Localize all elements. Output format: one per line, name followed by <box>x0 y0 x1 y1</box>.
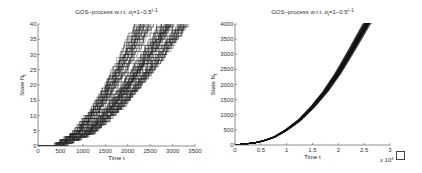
x-tick-label: 1 <box>285 147 289 153</box>
y-tick-label: 20 <box>30 82 37 88</box>
x-axis-label: Time t <box>304 154 321 160</box>
data-paths <box>235 22 373 145</box>
data-paths <box>38 24 189 146</box>
checkbox[interactable] <box>396 151 405 160</box>
x-tick-label: 1000 <box>76 148 90 154</box>
x-tick-label: 0 <box>233 147 237 153</box>
y-tick-label: 2000 <box>220 82 234 88</box>
figure-canvas: 0500100015002000250030003500051015202530… <box>0 0 422 173</box>
x-tick-label: 0 <box>36 148 40 154</box>
y-tick-label: 30 <box>30 52 37 58</box>
x-tick-label: 0.5 <box>257 147 266 153</box>
y-tick-label: 500 <box>223 127 234 133</box>
y-tick-label: 4000 <box>220 21 234 27</box>
x-tick-label: 1.5 <box>308 147 317 153</box>
x-tick-label: 2.5 <box>360 147 369 153</box>
x-tick-label: 3 <box>388 147 392 153</box>
x-tick-label: 2500 <box>143 148 157 154</box>
left-plot: 0500100015002000250030003500051015202530… <box>19 8 202 162</box>
y-tick-label: 25 <box>30 67 37 73</box>
y-tick-label: 2500 <box>220 66 234 72</box>
y-tick-label: 1500 <box>220 97 234 103</box>
y-tick-label: 35 <box>30 36 37 42</box>
x-tick-label: 500 <box>55 148 66 154</box>
right-plot: 00.511.522.53050010001500200025003000350… <box>210 8 394 164</box>
x-tick-label: 3000 <box>166 148 180 154</box>
x-tick-label: 3500 <box>188 148 202 154</box>
y-tick-label: 3000 <box>220 51 234 57</box>
x-axis-label: Time t <box>108 155 125 161</box>
y-axis-label: State Nt <box>210 73 218 95</box>
y-tick-label: 10 <box>30 113 37 119</box>
x-tick-label: 1500 <box>99 148 113 154</box>
y-tick-label: 3500 <box>220 36 234 42</box>
chart-title: GOS–process w.r.t. αi=1−0.5i−1 <box>75 8 158 17</box>
y-tick-label: 1000 <box>220 112 234 118</box>
x-tick-label: 2 <box>337 147 341 153</box>
chart-title: GOS–process w.r.t. αi=1−0.5i−1 <box>271 8 354 17</box>
y-tick-label: 15 <box>30 97 37 103</box>
y-tick-label: 5 <box>33 128 37 134</box>
x-axis-multiplier: x 104 <box>380 156 394 164</box>
y-tick-label: 40 <box>30 21 37 27</box>
x-tick-label: 2000 <box>121 148 135 154</box>
y-axis-label: State Nt <box>19 74 27 96</box>
